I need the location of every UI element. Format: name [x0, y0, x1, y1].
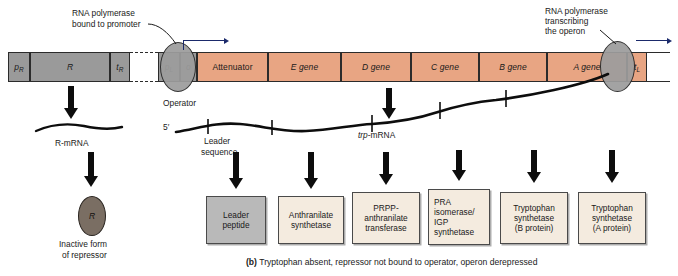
product-pra-line2: isomerase/ [434, 207, 487, 217]
product-pra-line1: PRA [434, 197, 487, 207]
arrow-to-tryptophan-synthetase-b-head [527, 172, 541, 183]
dna-segment-attenuator: Attenuator [197, 52, 268, 82]
arrow-to-pra-isomerase-head [452, 170, 466, 181]
leader-sequence-label-line2: sequence [201, 147, 237, 157]
five-prime-label: 5′ [163, 122, 169, 132]
leader-line-polymerase-transcribing [600, 30, 622, 50]
product-pra-line4: synthetase [434, 227, 487, 237]
product-trp-synth-b-line3: (B protein) [513, 223, 555, 233]
product-leader-peptide-line2: peptide [222, 220, 249, 230]
dna-segment-promoter-r: pR [8, 52, 30, 82]
product-pra-line3: IGP [434, 217, 487, 227]
trp-mrna-label: trp-mRNA [358, 130, 395, 140]
trp-mrna-label-italic: trp [358, 130, 368, 140]
annotation-polymerase-transcribing-line1: RNA polymerase [545, 6, 608, 16]
annotation-polymerase-transcribing-line3: the operon [545, 26, 585, 36]
product-trp-synth-a-line3: (A protein) [591, 223, 633, 233]
arrow-to-tryptophan-synthetase-b-shaft [531, 150, 537, 174]
product-leader-peptide-line1: Leader [222, 210, 249, 220]
figure-canvas: pR R tR pL o Attenuator E gene D gene C … [0, 0, 678, 276]
dna-label-e-gene: E gene [291, 62, 319, 72]
arrow-d-gene-to-mrna-head [382, 108, 396, 119]
product-box-anthranilate-synthetase: Anthranilate synthetase [278, 196, 344, 244]
product-box-pra-isomerase-igp-synthetase: PRA isomerase/ IGP synthetase [428, 189, 490, 245]
inactive-repressor-label-line1: Inactive form [59, 239, 107, 249]
repressor-symbol: R [89, 211, 95, 221]
product-prpp-line3: transferase [364, 223, 407, 233]
product-trp-synth-a-line2: synthetase [591, 213, 633, 223]
product-prpp-line1: PRPP- [364, 203, 407, 213]
transcription-arrow-right [636, 40, 668, 41]
arrow-dna-to-r-mrna-shaft [68, 86, 74, 110]
leader-sequence-label-line1: Leader [204, 136, 230, 146]
arrow-to-anthranilate-synthetase-shaft [308, 152, 314, 180]
dna-segment-c-gene: C gene [411, 52, 479, 82]
dna-segment-b-gene: B gene [479, 52, 547, 82]
dna-segment-e-gene: E gene [268, 52, 341, 82]
arrow-to-leader-peptide-head [229, 178, 243, 189]
r-mrna-strand [36, 122, 122, 136]
product-box-tryptophan-synthetase-a: Tryptophan synthetase (A protein) [578, 192, 646, 244]
product-anthranilate-line2: synthetase [289, 220, 333, 230]
product-anthranilate-line1: Anthranilate [289, 210, 333, 220]
arrow-to-pra-isomerase-shaft [456, 150, 462, 172]
product-box-tryptophan-synthetase-b: Tryptophan synthetase (B protein) [500, 192, 568, 244]
dna-label-b-gene: B gene [499, 62, 527, 72]
arrow-dna-to-r-mrna-head [64, 108, 78, 119]
dna-label-c-gene: C gene [431, 62, 459, 72]
product-prpp-line2: anthranilate [364, 213, 407, 223]
product-trp-synth-b-line1: Tryptophan [513, 203, 555, 213]
arrow-to-tryptophan-synthetase-a-shaft [609, 150, 615, 174]
inactive-repressor-label-line2: of repressor [62, 250, 107, 260]
transcription-arrow-head-left [224, 38, 229, 44]
transcription-arrow-head-right [667, 38, 672, 44]
arrow-r-mrna-to-repressor-shaft [88, 152, 94, 178]
r-mrna-label: R-mRNA [55, 138, 89, 148]
product-trp-synth-a-line1: Tryptophan [591, 203, 633, 213]
product-trp-synth-b-line2: synthetase [513, 213, 555, 223]
product-box-leader-peptide: Leader peptide [206, 196, 266, 244]
arrow-to-anthranilate-synthetase-head [304, 178, 318, 189]
arrow-to-tryptophan-synthetase-a-head [605, 172, 619, 183]
arrow-d-gene-to-mrna-shaft [386, 88, 392, 110]
transcription-start-arrow-left [183, 40, 225, 41]
dna-segment-r-gene: R [30, 52, 110, 82]
figure-caption-text: Tryptophan absent, repressor not bound t… [259, 257, 537, 267]
arrow-to-leader-peptide-shaft [233, 152, 239, 180]
product-box-prpp-anthranilate-transferase: PRPP- anthranilate transferase [352, 192, 420, 244]
arrow-to-prpp-anthranilate-transferase-shaft [383, 152, 389, 176]
annotation-polymerase-bound-line2: bound to promoter [72, 19, 140, 29]
annotation-polymerase-transcribing-line2: transcribing [545, 16, 588, 26]
leader-line-polymerase-bound [148, 22, 184, 50]
inactive-repressor-protein: R [78, 196, 106, 236]
annotation-polymerase-bound-line1: RNA polymerase [72, 8, 135, 18]
figure-caption-marker: (b) [246, 257, 257, 267]
arrow-to-prpp-anthranilate-transferase-head [379, 174, 393, 185]
dna-segment-spacer [130, 52, 158, 82]
trp-mrna-label-rest: -mRNA [368, 130, 395, 140]
dna-label-attenuator: Attenuator [212, 62, 252, 72]
dna-segment-terminator-r: tR [110, 52, 130, 82]
figure-caption: (b) Tryptophan absent, repressor not bou… [246, 257, 537, 267]
dna-label-a-gene: A gene [573, 62, 600, 72]
arrow-r-mrna-to-repressor-head [84, 176, 98, 187]
dna-segment-d-gene: D gene [341, 52, 411, 82]
dna-label-d-gene: D gene [362, 62, 390, 72]
